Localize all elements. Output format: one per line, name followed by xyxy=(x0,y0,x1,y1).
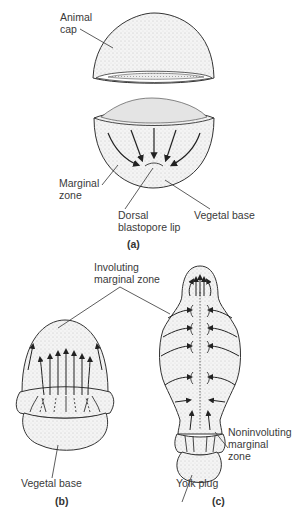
caption-a: (a) xyxy=(127,238,140,250)
panel-c-embryo xyxy=(159,266,240,502)
label-vegetal-base-a: Vegetal base xyxy=(194,209,255,221)
label-yolk-plug: Yolk plug xyxy=(176,477,218,489)
label-noninvoluting-marginal-zone: Noninvoluting marginal zone xyxy=(228,426,292,462)
panel-b-embryo xyxy=(16,320,114,478)
caption-b: (b) xyxy=(55,495,68,507)
panel-a-animal-cap xyxy=(80,13,214,83)
caption-c: (c) xyxy=(212,495,225,507)
label-involuting-marginal-zone: Involuting marginal zone xyxy=(94,261,160,285)
panel-a-lower-half xyxy=(94,98,214,209)
label-dorsal-blastopore-lip: Dorsal blastopore lip xyxy=(118,209,180,233)
label-vegetal-base-b: Vegetal base xyxy=(21,477,82,489)
label-marginal-zone: Marginal zone xyxy=(59,177,99,201)
label-animal-cap: Animal cap xyxy=(60,11,92,35)
